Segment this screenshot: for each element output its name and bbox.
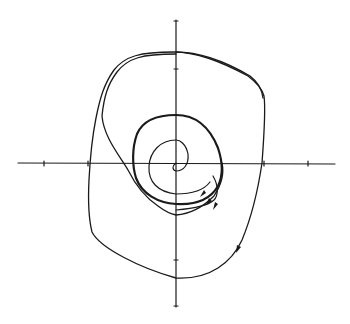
phase-portrait-diagram [0,0,350,324]
limit-cycle [133,115,222,204]
axes [18,20,335,307]
arrow-icon [213,202,218,210]
outer-trajectory [88,52,264,278]
arrow-icon [236,245,241,253]
arrow-icon [200,190,206,197]
